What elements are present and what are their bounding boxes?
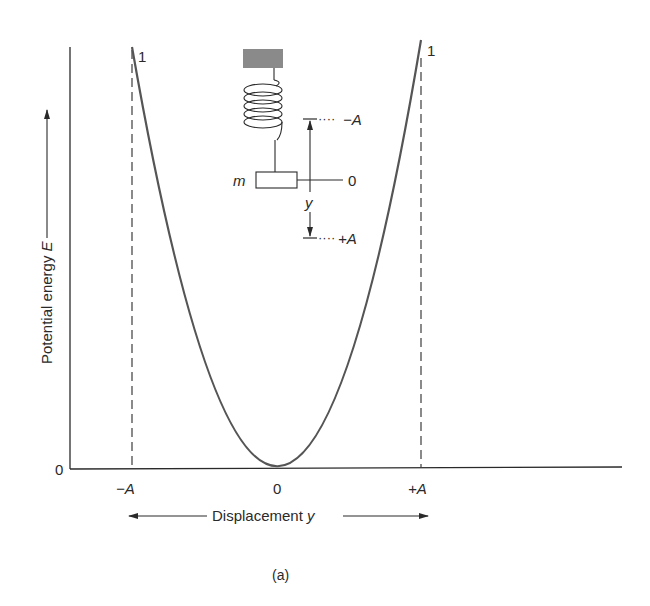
ceiling-support bbox=[243, 49, 283, 68]
x-tick-zero: 0 bbox=[273, 480, 281, 497]
x-tick-plus-a: +A bbox=[408, 480, 427, 497]
potential-energy-curve bbox=[132, 40, 421, 466]
diagram-canvas: 1 1 Potential energy E 0 −A 0 +A Displac… bbox=[0, 0, 650, 606]
x-tick-minus-a: −A bbox=[116, 480, 135, 497]
curve-end-label-left: 1 bbox=[138, 48, 146, 65]
x-axis-label: Displacement y bbox=[212, 507, 316, 524]
origin-label: 0 bbox=[55, 461, 63, 478]
y-axis-label: Potential energy E bbox=[38, 240, 55, 364]
displacement-label: y bbox=[304, 194, 314, 211]
lower-amplitude-label: +A bbox=[338, 230, 357, 247]
equilibrium-label: 0 bbox=[348, 172, 356, 189]
upper-amplitude-label: −A bbox=[343, 111, 362, 128]
mass-block bbox=[256, 172, 297, 188]
spring-icon bbox=[244, 80, 282, 140]
spring-mass-inset: m 0 ···· −A ···· +A y bbox=[233, 49, 362, 247]
upper-dots: ···· bbox=[318, 111, 335, 126]
lower-dots: ···· bbox=[318, 230, 335, 245]
figure-caption: (a) bbox=[272, 567, 289, 583]
x-axis bbox=[70, 467, 622, 469]
mass-label: m bbox=[233, 172, 246, 189]
curve-end-label-right: 1 bbox=[427, 42, 435, 59]
